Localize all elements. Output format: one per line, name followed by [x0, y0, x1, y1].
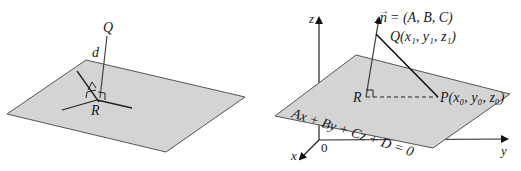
normal-n-label: n	[380, 10, 387, 25]
axis-label-z: z	[308, 11, 314, 26]
origin-label: 0	[321, 140, 328, 155]
diagram-canvas: Q d R z y x 0 → n = (A, B, C) Q(x₁, y₁, …	[0, 0, 521, 171]
axis-label-y: y	[499, 143, 507, 158]
point-Q-label: Q(x₁, y₁, z₁)	[390, 29, 456, 45]
normal-components-label: = (A, B, C)	[390, 10, 453, 26]
left-label-Q: Q	[103, 20, 113, 35]
left-label-R: R	[90, 103, 100, 118]
left-label-d: d	[92, 45, 100, 60]
x-axis	[300, 140, 319, 159]
point-R-label: R	[352, 90, 362, 105]
point-P-label: P(x₀, y₀, z₀)	[439, 90, 505, 106]
left-figure: Q d R	[7, 20, 245, 152]
axis-label-x: x	[290, 148, 297, 163]
right-figure: z y x 0 → n = (A, B, C) Q(x₁, y₁, z₁) R …	[275, 5, 510, 163]
